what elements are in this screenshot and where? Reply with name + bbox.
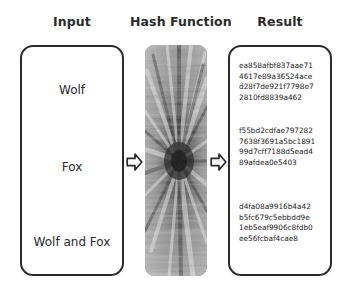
hash-result-wolf-and-fox: d4fa08a9916b4a42 b5fc679c5ebbdd9e 1eb5ea…: [239, 202, 329, 244]
hash-function-image: [145, 45, 207, 276]
hash-line: ea858afbf837aae71: [239, 61, 329, 72]
hash-line: 1eb5eaf9906c8fdb0: [239, 223, 329, 234]
arrow-right-outline-icon: [126, 152, 143, 172]
input-item-fox: Fox: [22, 160, 122, 174]
input-panel: Wolf Fox Wolf and Fox: [20, 45, 124, 276]
hash-line: 7638f3691a5bc1891: [239, 137, 329, 148]
arrow-right-outline-icon: [210, 152, 227, 172]
hash-line: f55bd2cdfae797282: [239, 126, 329, 137]
input-item-wolf: Wolf: [22, 83, 122, 97]
column-header-hash-function: Hash Function: [130, 14, 222, 29]
hash-line: ee56fcbaf4cae8: [239, 234, 329, 245]
column-header-input: Input: [20, 14, 124, 29]
input-item-wolf-and-fox: Wolf and Fox: [22, 235, 122, 249]
hash-line: 2810fd8839a462: [239, 93, 329, 104]
hash-function-diagram: Input Hash Function Result Wolf Fox Wolf…: [0, 0, 351, 292]
hash-line: d4fa08a9916b4a42: [239, 202, 329, 213]
hash-line: 89afdea0e5403: [239, 158, 329, 169]
result-panel: ea858afbf837aae71 4617e89a36524ace d28f7…: [228, 45, 332, 276]
hash-line: b5fc679c5ebbdd9e: [239, 213, 329, 224]
hash-line: d28f7de921f7798e7: [239, 82, 329, 93]
hash-result-wolf: ea858afbf837aae71 4617e89a36524ace d28f7…: [239, 61, 329, 103]
hash-line: 4617e89a36524ace: [239, 72, 329, 83]
column-header-result: Result: [228, 14, 332, 29]
hash-line: 99d7cff7188d5ead4: [239, 147, 329, 158]
hash-result-fox: f55bd2cdfae797282 7638f3691a5bc1891 99d7…: [239, 126, 329, 168]
